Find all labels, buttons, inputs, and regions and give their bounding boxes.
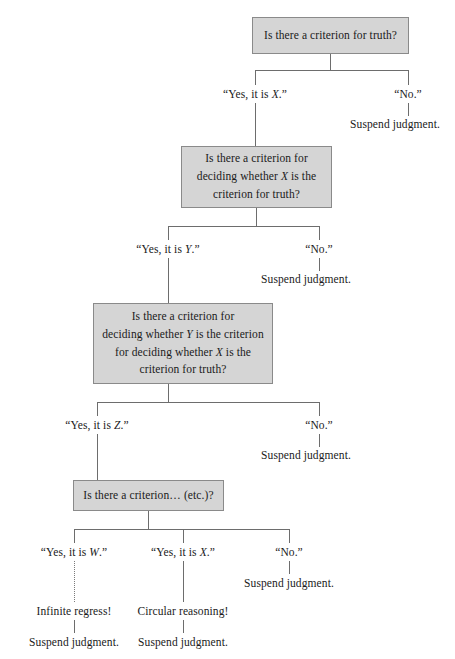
- connector-level-4-no-to-result: [289, 561, 290, 574]
- result-level-3-suspend-judgment: Suspend judgment.: [261, 448, 351, 463]
- decision-box-level-2-text: Is there a criterion for deciding whethe…: [197, 150, 316, 203]
- connector-level-4-stem: [148, 511, 149, 529]
- decision-box-level-4: Is there a criterion… (etc.)?: [73, 480, 224, 511]
- outcome-infinite-regress-text: Infinite regress!: [37, 605, 112, 617]
- connector-level-4-yes-w-drop: [74, 529, 75, 543]
- decision-box-level-3-text: Is there a criterion for deciding whethe…: [102, 308, 264, 379]
- flowchart-diagram: Is there a criterion for truth? “Yes, it…: [0, 0, 455, 659]
- branch-label-level-4-yes-w: “Yes, it is W.”: [41, 545, 107, 560]
- connector-level-2-yes-drop: [168, 226, 169, 240]
- decision-box-level-1: Is there a criterion for truth?: [252, 17, 409, 54]
- result-level-3-suspend-judgment-text: Suspend judgment.: [261, 449, 351, 461]
- branch-label-level-4-no-text: “No.”: [275, 546, 303, 558]
- connector-level-1-yes-to-level-2: [255, 103, 256, 146]
- connector-level-3-no-to-result: [319, 434, 320, 447]
- branch-label-level-1-no-text: “No.”: [394, 88, 422, 100]
- branch-label-level-4-no: “No.”: [275, 545, 303, 560]
- decision-box-level-2-line-1: Is there a criterion for: [205, 152, 308, 164]
- outcome-circular-reasoning-text: Circular reasoning!: [138, 605, 229, 617]
- branch-label-level-2-yes-text: “Yes, it is Y.”: [136, 243, 199, 255]
- result-level-1-suspend-judgment-text: Suspend judgment.: [350, 118, 440, 130]
- decision-box-level-3-line-1: Is there a criterion for: [132, 310, 235, 322]
- branch-label-level-4-yes-x: “Yes, it is X.”: [151, 545, 215, 560]
- decision-box-level-3: Is there a criterion for deciding whethe…: [93, 303, 273, 384]
- connector-level-1-split-bar: [255, 70, 408, 71]
- connector-level-4-no-drop: [289, 529, 290, 543]
- branch-label-level-4-yes-w-text: “Yes, it is W.”: [41, 546, 107, 558]
- branch-label-level-3-no-text: “No.”: [305, 419, 333, 431]
- connector-level-3-split-bar: [97, 402, 319, 403]
- result-level-1-suspend-judgment: Suspend judgment.: [350, 117, 440, 132]
- branch-label-level-2-no-text: “No.”: [305, 243, 333, 255]
- connector-level-3-yes-to-level-4: [97, 434, 98, 480]
- decision-box-level-3-line-3: for deciding whether X is the: [115, 346, 251, 358]
- decision-box-level-3-line-2: deciding whether Y is the criterion: [102, 328, 264, 340]
- connector-level-2-stem: [256, 208, 257, 226]
- decision-box-level-3-line-4: criterion for truth?: [140, 363, 227, 375]
- result-level-4-suspend-judgment-text: Suspend judgment.: [244, 577, 334, 589]
- branch-label-level-2-no: “No.”: [305, 242, 333, 257]
- decision-box-level-2: Is there a criterion for deciding whethe…: [181, 146, 332, 208]
- branch-label-level-3-yes-text: “Yes, it is Z.”: [65, 419, 128, 431]
- connector-level-1-no-drop: [408, 70, 409, 85]
- result-infinite-regress-suspend-judgment-text: Suspend judgment.: [29, 636, 119, 648]
- connector-infinite-regress-to-result: [74, 620, 75, 633]
- connector-level-4-split-bar: [74, 529, 289, 530]
- result-level-4-suspend-judgment: Suspend judgment.: [244, 576, 334, 591]
- result-circular-reasoning-suspend-judgment-text: Suspend judgment.: [138, 636, 228, 648]
- connector-level-3-yes-drop: [97, 402, 98, 416]
- connector-level-2-no-drop: [319, 226, 320, 240]
- branch-label-level-3-no: “No.”: [305, 418, 333, 433]
- connector-level-2-no-to-result: [319, 258, 320, 271]
- connector-level-1-yes-drop: [255, 70, 256, 85]
- connector-circular-reasoning-to-result: [183, 620, 184, 633]
- outcome-infinite-regress: Infinite regress!: [37, 604, 112, 619]
- connector-level-3-stem: [168, 384, 169, 402]
- branch-label-level-1-yes: “Yes, it is X.”: [223, 87, 287, 102]
- decision-box-level-1-text: Is there a criterion for truth?: [264, 27, 397, 45]
- connector-level-3-no-drop: [319, 402, 320, 416]
- connector-level-2-split-bar: [168, 226, 319, 227]
- outcome-circular-reasoning: Circular reasoning!: [138, 604, 229, 619]
- branch-label-level-1-yes-text: “Yes, it is X.”: [223, 88, 287, 100]
- connector-level-1-no-to-result: [408, 103, 409, 116]
- result-level-2-suspend-judgment-text: Suspend judgment.: [261, 273, 351, 285]
- branch-label-level-2-yes: “Yes, it is Y.”: [136, 242, 199, 257]
- decision-box-level-2-line-3: criterion for truth?: [213, 188, 300, 200]
- connector-circular-reasoning: [183, 561, 184, 602]
- result-infinite-regress-suspend-judgment: Suspend judgment.: [29, 635, 119, 650]
- result-level-2-suspend-judgment: Suspend judgment.: [261, 272, 351, 287]
- connector-level-2-yes-to-level-3: [168, 258, 169, 303]
- decision-box-level-2-line-2: deciding whether X is the: [197, 170, 316, 182]
- connector-level-4-yes-x-drop: [183, 529, 184, 543]
- connector-infinite-regress-dotted: [74, 561, 75, 602]
- branch-label-level-4-yes-x-text: “Yes, it is X.”: [151, 546, 215, 558]
- decision-box-level-4-text: Is there a criterion… (etc.)?: [83, 487, 213, 505]
- result-circular-reasoning-suspend-judgment: Suspend judgment.: [138, 635, 228, 650]
- branch-label-level-3-yes: “Yes, it is Z.”: [65, 418, 128, 433]
- connector-level-1-stem: [330, 54, 331, 70]
- branch-label-level-1-no: “No.”: [394, 87, 422, 102]
